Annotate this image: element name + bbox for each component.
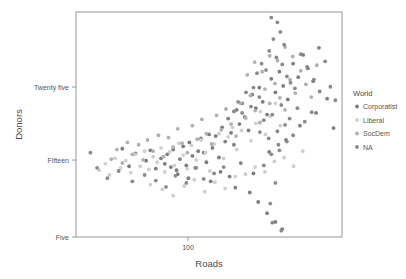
data-point bbox=[202, 177, 206, 181]
data-point bbox=[210, 142, 214, 146]
legend-label-socdem[interactable]: SocDem bbox=[363, 130, 390, 137]
data-point bbox=[95, 166, 99, 170]
data-point bbox=[255, 71, 259, 75]
data-point bbox=[276, 143, 280, 147]
data-point bbox=[301, 149, 305, 153]
data-point bbox=[282, 43, 286, 47]
data-point bbox=[212, 172, 216, 176]
data-point bbox=[314, 111, 318, 115]
data-point bbox=[143, 149, 147, 153]
y-tick-label-2: Five bbox=[56, 234, 69, 241]
data-point bbox=[296, 75, 300, 79]
data-point bbox=[120, 147, 124, 151]
data-point bbox=[194, 158, 198, 162]
data-point bbox=[185, 151, 189, 155]
data-point bbox=[211, 146, 215, 150]
data-point bbox=[282, 156, 286, 160]
data-point bbox=[283, 108, 287, 112]
data-point bbox=[291, 133, 295, 137]
data-point bbox=[137, 143, 141, 147]
data-point bbox=[279, 103, 283, 107]
data-point bbox=[309, 95, 313, 99]
data-point bbox=[291, 62, 295, 66]
data-point bbox=[154, 167, 158, 171]
data-point bbox=[109, 157, 113, 161]
data-point bbox=[215, 113, 219, 117]
data-point bbox=[223, 140, 227, 144]
legend-label-liberal[interactable]: Liberal bbox=[363, 117, 384, 124]
data-point bbox=[129, 171, 133, 175]
data-point bbox=[274, 181, 278, 185]
data-point bbox=[184, 181, 188, 185]
data-point bbox=[157, 133, 161, 137]
data-point bbox=[257, 95, 261, 99]
legend-swatch-na[interactable] bbox=[355, 145, 359, 149]
data-point bbox=[167, 136, 171, 140]
data-point bbox=[318, 90, 322, 94]
data-point bbox=[204, 151, 208, 155]
data-point bbox=[240, 111, 244, 115]
data-point bbox=[253, 60, 257, 64]
data-point bbox=[292, 164, 296, 168]
legend-swatch-socdem[interactable] bbox=[355, 132, 359, 136]
data-point bbox=[271, 37, 275, 41]
data-point bbox=[223, 187, 227, 191]
data-point bbox=[256, 200, 260, 204]
data-point bbox=[260, 62, 264, 66]
data-point bbox=[288, 78, 292, 82]
data-point bbox=[317, 46, 321, 50]
data-point bbox=[234, 134, 238, 138]
data-point bbox=[270, 221, 274, 225]
data-point bbox=[178, 157, 182, 161]
data-point bbox=[232, 109, 236, 113]
data-point bbox=[268, 202, 272, 206]
data-point bbox=[269, 16, 273, 20]
data-point bbox=[130, 179, 134, 183]
data-point bbox=[228, 175, 232, 179]
data-point bbox=[154, 179, 158, 183]
legend-label-corporatist[interactable]: Corporatist bbox=[363, 103, 397, 111]
data-point bbox=[213, 180, 217, 184]
data-point bbox=[296, 106, 300, 110]
data-point bbox=[293, 91, 297, 95]
data-point bbox=[269, 77, 273, 81]
data-point bbox=[168, 150, 172, 154]
data-point bbox=[163, 162, 167, 166]
data-point bbox=[204, 160, 208, 164]
data-point bbox=[105, 176, 109, 180]
data-point bbox=[270, 113, 274, 117]
data-point bbox=[288, 117, 292, 121]
data-point bbox=[265, 211, 269, 215]
x-tick-label-0: 100 bbox=[182, 244, 194, 251]
data-point bbox=[328, 85, 332, 89]
data-point bbox=[200, 117, 204, 121]
data-point bbox=[254, 121, 258, 125]
data-point bbox=[162, 155, 166, 159]
data-point bbox=[269, 152, 273, 156]
data-point bbox=[146, 138, 150, 142]
legend-swatch-liberal[interactable] bbox=[355, 118, 359, 122]
data-point bbox=[229, 131, 233, 135]
data-point bbox=[323, 59, 327, 63]
data-point bbox=[268, 102, 272, 106]
data-point bbox=[244, 90, 248, 94]
data-point bbox=[217, 156, 221, 160]
data-point bbox=[260, 70, 264, 74]
data-points-group bbox=[89, 16, 338, 233]
data-point bbox=[275, 129, 279, 133]
scatter-chart-figure: Twenty fiveFifteenFive100RoadsDonorsWorl… bbox=[0, 0, 406, 279]
data-point bbox=[267, 137, 271, 141]
data-point bbox=[268, 54, 272, 58]
data-point bbox=[315, 63, 319, 67]
data-point bbox=[148, 183, 152, 187]
data-point bbox=[219, 170, 223, 174]
legend-label-na[interactable]: NA bbox=[363, 144, 373, 151]
data-point bbox=[236, 100, 240, 104]
data-point bbox=[117, 169, 121, 173]
data-point bbox=[238, 122, 242, 126]
legend: WorldCorporatistLiberalSocDemNA bbox=[353, 89, 397, 151]
data-point bbox=[277, 148, 281, 152]
legend-swatch-corporatist[interactable] bbox=[355, 105, 359, 109]
data-point bbox=[155, 160, 159, 164]
data-point bbox=[190, 154, 194, 158]
